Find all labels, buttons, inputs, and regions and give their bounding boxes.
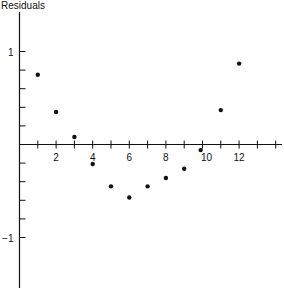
data-point [91,162,95,166]
data-point [109,184,113,188]
data-point [127,195,131,199]
x-tick-label: 8 [163,152,169,163]
data-points [36,61,242,199]
x-tick-label: 10 [201,152,213,163]
data-point [164,176,168,180]
residuals-scatter-plot: 24681012−11 [0,0,284,299]
data-point [182,166,186,170]
data-point [36,73,40,77]
x-tick-label: 4 [90,152,96,163]
data-point [219,108,223,112]
data-point [72,135,76,139]
data-point [145,184,149,188]
y-tick-label: 1 [8,47,14,58]
x-tick-label: 6 [127,152,133,163]
data-point [198,148,202,152]
x-tick-label: 2 [53,152,59,163]
x-tick-label: 12 [234,152,246,163]
y-tick-label: −1 [2,233,14,244]
data-point [54,110,58,114]
data-point [237,61,241,65]
axes [20,12,283,288]
